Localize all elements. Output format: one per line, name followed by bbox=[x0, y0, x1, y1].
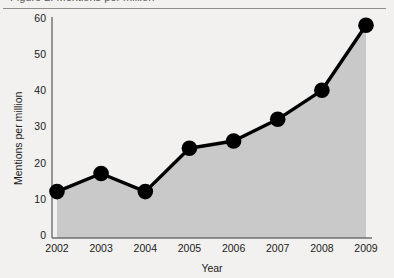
y-tick-label-10: 10 bbox=[34, 193, 46, 205]
x-axis-title: Year bbox=[201, 262, 223, 274]
x-tick-label-2004: 2004 bbox=[134, 242, 158, 254]
chart-figure: Figure 2. Mentions per million 010203040… bbox=[0, 0, 394, 278]
x-tick-label-2008: 2008 bbox=[310, 242, 334, 254]
y-tick-label-40: 40 bbox=[34, 84, 46, 96]
y-tick-label-20: 20 bbox=[34, 157, 46, 169]
x-tick-label-2003: 2003 bbox=[89, 242, 113, 254]
y-tick-label-50: 50 bbox=[34, 48, 46, 60]
y-tick-label-60: 60 bbox=[34, 12, 46, 24]
line-area-chart: 0102030405060 20022003200420052006200720… bbox=[0, 0, 394, 278]
x-tick-label-2007: 2007 bbox=[266, 242, 290, 254]
data-point-2006 bbox=[226, 133, 242, 149]
data-point-2005 bbox=[182, 140, 198, 156]
y-tick-labels: 0102030405060 bbox=[34, 12, 46, 241]
x-tick-labels: 20022003200420052006200720082009 bbox=[45, 242, 378, 254]
data-point-2002 bbox=[49, 184, 65, 200]
data-point-2003 bbox=[93, 166, 109, 182]
x-tick-label-2005: 2005 bbox=[178, 242, 202, 254]
area-fill bbox=[57, 25, 366, 238]
data-point-2008 bbox=[314, 83, 330, 99]
x-tick-label-2006: 2006 bbox=[222, 242, 246, 254]
data-point-2004 bbox=[138, 184, 154, 200]
data-point-2007 bbox=[270, 112, 286, 128]
y-tick-label-0: 0 bbox=[40, 229, 46, 241]
x-tick-label-2009: 2009 bbox=[354, 242, 378, 254]
x-tick-label-2002: 2002 bbox=[45, 242, 69, 254]
y-axis-title: Mentions per million bbox=[12, 91, 24, 185]
data-point-2009 bbox=[358, 17, 374, 33]
y-tick-label-30: 30 bbox=[34, 120, 46, 132]
